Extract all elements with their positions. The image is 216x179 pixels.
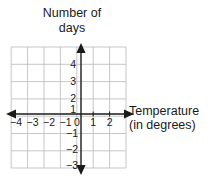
y-axis: [76, 43, 85, 175]
y-tick-label: 1: [70, 103, 76, 115]
coordinate-grid: −4 −3 −2 −1 0 1 2 4 3 2 1 −1 −2 −3: [0, 0, 216, 179]
x-tick-label: −4: [10, 116, 22, 128]
y-tick-label: −3: [66, 159, 78, 171]
coordinate-plane-figure: Number of days: [0, 0, 216, 179]
y-tick-label: 4: [70, 58, 76, 70]
y-axis-top-arrowhead: [76, 43, 85, 53]
x-tick-label: −3: [27, 116, 39, 128]
x-axis-title: Temperature (in degrees): [129, 104, 216, 132]
x-tick-label: −2: [43, 116, 55, 128]
y-tick-label: −2: [66, 143, 78, 155]
x-tick-labels: −4 −3 −2 −1 0 1 2: [10, 116, 113, 128]
y-tick-label: −1: [66, 127, 78, 139]
x-tick-label: 1: [90, 116, 96, 128]
x-tick-label: 2: [107, 116, 113, 128]
y-tick-label: 3: [70, 75, 76, 87]
